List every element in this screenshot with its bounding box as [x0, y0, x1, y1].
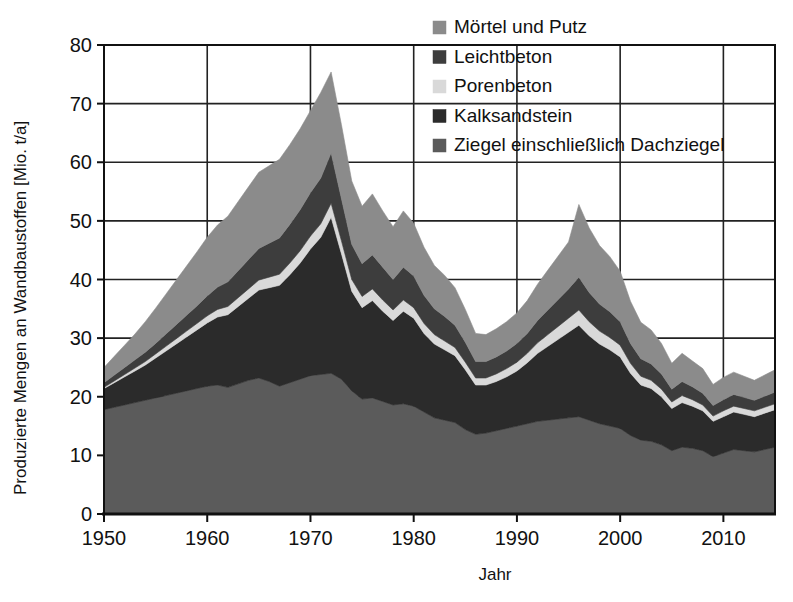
legend-swatch — [433, 21, 446, 34]
chart-figure: Produzierte Mengen an Wandbaustoffen [Mi… — [0, 0, 793, 602]
y-tick-label: 60 — [70, 151, 92, 173]
legend-swatch — [433, 51, 446, 64]
legend-label: Kalksandstein — [454, 105, 572, 126]
legend-label: Porenbeton — [454, 75, 552, 96]
legend-label: Mörtel und Putz — [454, 16, 587, 37]
x-tick-label: 2000 — [598, 527, 643, 549]
y-axis-title: Produzierte Mengen an Wandbaustoffen [Mi… — [11, 121, 30, 495]
y-tick-labels: 01020304050607080 — [70, 34, 92, 525]
x-tick-label: 1960 — [185, 527, 230, 549]
y-tick-label: 40 — [70, 269, 92, 291]
legend-item[interactable]: Kalksandstein — [433, 105, 572, 126]
y-tick-label: 10 — [70, 444, 92, 466]
legend-label: Ziegel einschließlich Dachziegel — [454, 134, 724, 155]
y-tick-label: 0 — [81, 503, 92, 525]
x-tick-label: 2010 — [701, 527, 746, 549]
x-tick-label: 1950 — [82, 527, 127, 549]
legend-swatch — [433, 80, 446, 93]
x-tick-label: 1990 — [495, 527, 540, 549]
y-tick-label: 20 — [70, 386, 92, 408]
stacked-area-chart: Produzierte Mengen an Wandbaustoffen [Mi… — [0, 0, 793, 602]
x-tick-label: 1970 — [288, 527, 333, 549]
y-tick-label: 70 — [70, 93, 92, 115]
legend-label: Leichtbeton — [454, 46, 552, 67]
legend-swatch — [433, 139, 446, 152]
y-tick-label: 80 — [70, 34, 92, 56]
x-axis-title: Jahr — [478, 565, 511, 584]
legend-item[interactable]: Mörtel und Putz — [433, 16, 587, 37]
legend-item[interactable]: Ziegel einschließlich Dachziegel — [433, 134, 724, 155]
legend-swatch — [433, 110, 446, 123]
y-tick-label: 30 — [70, 327, 92, 349]
y-tick-label: 50 — [70, 210, 92, 232]
x-tick-label: 1980 — [391, 527, 436, 549]
